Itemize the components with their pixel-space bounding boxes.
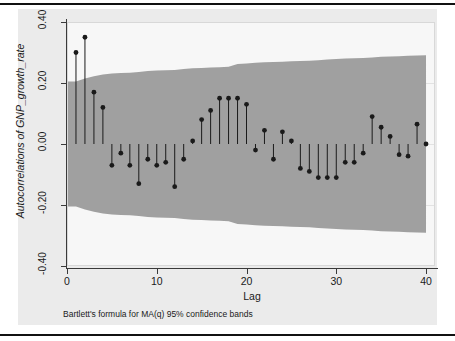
acf-marker xyxy=(199,117,204,122)
acf-marker xyxy=(352,160,357,165)
y-tick-label: -0.40 xyxy=(37,248,48,280)
x-tick-mark xyxy=(157,269,158,274)
acf-marker xyxy=(334,175,339,180)
plot-area xyxy=(67,22,435,266)
acf-marker xyxy=(101,105,106,110)
page-rule-top xyxy=(0,3,455,5)
acf-marker xyxy=(217,96,222,101)
x-tick-label: 30 xyxy=(316,275,356,287)
acf-marker xyxy=(325,175,330,180)
x-tick-label: 20 xyxy=(227,275,267,287)
acf-marker xyxy=(253,148,258,153)
y-tick-mark xyxy=(61,22,66,23)
acf-marker xyxy=(181,157,186,162)
y-tick-label: 0.20 xyxy=(37,65,48,97)
y-tick-mark xyxy=(61,205,66,206)
x-axis-title: Lag xyxy=(66,290,438,302)
acf-marker xyxy=(406,154,411,159)
acf-marker xyxy=(424,142,429,147)
acf-marker xyxy=(190,139,195,144)
caption-note: Bartlett's formula for MA(q) 95% confide… xyxy=(63,309,253,319)
acf-marker xyxy=(316,175,321,180)
acf-marker xyxy=(397,152,402,157)
acf-marker xyxy=(235,96,240,101)
acf-marker xyxy=(298,166,303,171)
acf-marker xyxy=(172,184,177,189)
acf-marker xyxy=(379,125,384,130)
acf-stems xyxy=(67,22,435,266)
acf-marker xyxy=(244,102,249,107)
acf-marker xyxy=(136,181,141,186)
acf-marker xyxy=(92,90,97,95)
document-frame: Autocorrelations of GNP_growth_rate 0.40… xyxy=(0,0,455,341)
x-tick-label: 0 xyxy=(47,275,87,287)
page-rule-bottom xyxy=(0,334,455,336)
y-tick-mark xyxy=(61,266,66,267)
acf-marker xyxy=(262,128,267,133)
y-tick-mark xyxy=(61,83,66,84)
acf-marker xyxy=(226,96,231,101)
y-tick-label: 0.00 xyxy=(37,126,48,158)
acf-marker xyxy=(154,163,159,168)
x-tick-mark xyxy=(336,269,337,274)
acf-marker xyxy=(343,160,348,165)
acf-marker xyxy=(74,50,79,55)
y-tick-label: 0.40 xyxy=(37,4,48,36)
y-tick-label: -0.20 xyxy=(37,187,48,219)
x-tick-mark xyxy=(426,269,427,274)
acf-marker xyxy=(415,122,420,127)
acf-marker xyxy=(388,134,393,139)
x-tick-label: 40 xyxy=(406,275,446,287)
acf-marker xyxy=(361,151,366,156)
acf-marker xyxy=(127,163,132,168)
graph-region: Autocorrelations of GNP_growth_rate 0.40… xyxy=(18,9,437,325)
acf-marker xyxy=(109,163,114,168)
acf-marker xyxy=(280,129,285,134)
acf-marker xyxy=(83,35,88,40)
acf-marker xyxy=(307,169,312,174)
acf-marker xyxy=(289,139,294,144)
acf-marker xyxy=(118,151,123,156)
x-tick-label: 10 xyxy=(137,275,177,287)
x-tick-mark xyxy=(247,269,248,274)
y-axis-title: Autocorrelations of GNP_growth_rate xyxy=(14,9,26,253)
y-tick-mark xyxy=(61,144,66,145)
acf-marker xyxy=(370,114,375,119)
x-axis-line xyxy=(66,268,438,269)
x-tick-mark xyxy=(67,269,68,274)
acf-marker xyxy=(145,157,150,162)
acf-marker xyxy=(163,160,168,165)
acf-marker xyxy=(271,157,276,162)
acf-marker xyxy=(208,108,213,113)
